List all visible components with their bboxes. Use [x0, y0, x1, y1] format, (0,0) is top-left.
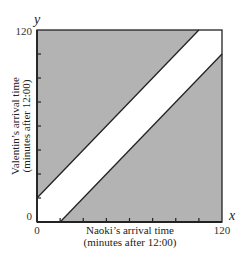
chart: y x 120 0 0 120 Naoki’s arrival time (mi… [0, 0, 245, 266]
y-axis-title-line2: (minutes after 12:00) [20, 79, 33, 172]
y-tick-label-max: 120 [16, 25, 33, 37]
x-axis-title-line1: Naoki’s arrival time [86, 224, 174, 236]
y-axis-variable: y [32, 12, 41, 27]
plot-area [37, 30, 222, 222]
x-axis-variable: x [228, 208, 236, 223]
x-axis-title-line2: (minutes after 12:00) [84, 236, 177, 249]
y-tick-label-min: 0 [27, 210, 33, 222]
x-tick-label-min: 0 [34, 224, 40, 236]
x-tick-label-max: 120 [214, 224, 231, 236]
